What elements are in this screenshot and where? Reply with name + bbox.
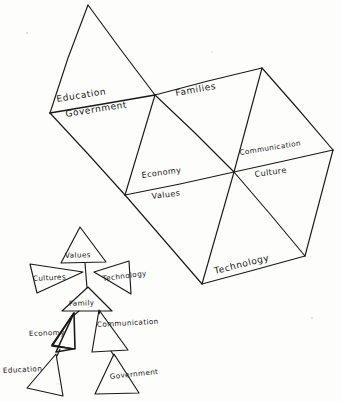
shape-education-triangle [27, 354, 63, 396]
edge-apex-to-center [88, 5, 155, 95]
edge-topright-peak-to-midright [234, 68, 262, 172]
edge-right-to-bottomright [305, 150, 333, 256]
label-culture-upper: Culture [254, 166, 287, 179]
hand-drawn-diagram: Education Government Families Economy Va… [0, 0, 341, 402]
label-government-upper: Government [65, 99, 128, 119]
edge-center-to-midright [155, 95, 234, 172]
lower-diagram: Values Cultures Technology Family Econom… [3, 227, 159, 396]
label-values-upper: Values [151, 189, 181, 201]
label-families-upper: Families [175, 81, 217, 98]
label-culture-lower: Cultures [33, 272, 67, 283]
label-economy-lower: Economy [29, 328, 66, 338]
label-government-lower: Government [109, 367, 159, 381]
shape-communication-triangle [92, 310, 128, 352]
label-technology-upper: Technology [212, 253, 270, 277]
edge-midright-to-bottomright [234, 172, 305, 256]
paper-specks [26, 32, 313, 385]
label-values-lower: Values [65, 250, 91, 260]
edge-center-to-midleft [125, 95, 155, 195]
label-technology-lower: Technology [101, 269, 147, 283]
label-education-lower: Education [3, 364, 43, 375]
label-education-upper: Education [56, 86, 107, 104]
label-communication-upper: Communication [239, 138, 302, 157]
label-economy-upper: Economy [141, 166, 182, 180]
label-communication-lower: Communication [97, 317, 159, 329]
edge-topright-peak-to-right [262, 68, 333, 150]
label-family-lower: Family [69, 298, 95, 308]
connector-communication-to-government [111, 351, 114, 356]
edge-left-to-midleft [50, 113, 125, 195]
upper-diagram: Education Government Families Economy Va… [50, 5, 333, 284]
diagram-canvas: Education Government Families Economy Va… [0, 0, 341, 402]
connector-values-to-family [85, 263, 87, 288]
